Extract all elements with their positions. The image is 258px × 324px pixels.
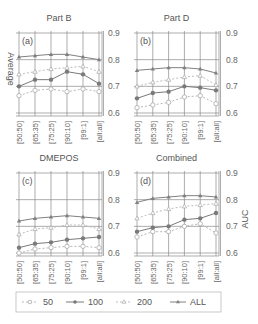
- x-tick-label: [65:35]: [31, 121, 40, 144]
- data-point: [65, 223, 69, 227]
- data-point: [81, 87, 85, 91]
- data-point: [33, 88, 37, 92]
- data-point: [214, 83, 218, 87]
- data-point: [135, 229, 139, 233]
- data-point: [49, 67, 53, 71]
- data-point: [81, 244, 85, 248]
- open-circle-icon: [28, 300, 32, 304]
- x-tick-label: [50:50]: [133, 121, 142, 144]
- data-point: [97, 89, 101, 93]
- data-point: [17, 93, 21, 97]
- data-point: [135, 235, 139, 239]
- x-tick-label: [50:50]: [133, 261, 142, 284]
- y-tick-label: 0.9: [108, 28, 120, 38]
- y-tick-label: 0.7: [226, 81, 238, 91]
- legend-label-200: 200: [137, 297, 152, 307]
- data-point: [17, 251, 21, 255]
- data-point: [151, 211, 155, 215]
- data-point: [65, 65, 69, 69]
- data-point: [49, 77, 53, 81]
- data-point: [81, 72, 85, 76]
- x-tick-label: [65:35]: [149, 261, 158, 284]
- data-point: [166, 224, 170, 228]
- data-point: [151, 103, 155, 107]
- y-tick-label: 0.8: [108, 195, 120, 205]
- data-point: [166, 207, 170, 211]
- data-point: [182, 217, 186, 221]
- x-tick-label: [all:all]: [212, 121, 221, 142]
- x-tick-label: [90:10]: [180, 121, 189, 144]
- y-tick-label: 0.7: [108, 221, 120, 231]
- data-point: [198, 203, 202, 207]
- series-line-all: [137, 196, 216, 203]
- x-tick-label: [all:all]: [95, 261, 104, 282]
- data-point: [33, 247, 37, 251]
- y-axis-label: Average: [6, 52, 16, 85]
- data-point: [135, 105, 139, 109]
- x-tick-label: [99:1]: [196, 121, 205, 140]
- legend-label-all: ALL: [190, 297, 206, 307]
- data-point: [182, 204, 186, 208]
- x-tick-label: [65:35]: [149, 121, 158, 144]
- series-line-all: [19, 54, 99, 59]
- data-point: [33, 77, 37, 81]
- data-point: [97, 245, 101, 249]
- data-point: [214, 101, 218, 105]
- data-point: [182, 224, 186, 228]
- panel-title: DMEPOS: [39, 153, 78, 163]
- data-point: [97, 235, 101, 239]
- data-point: [65, 69, 69, 73]
- data-point: [33, 227, 37, 231]
- data-point: [81, 223, 85, 227]
- x-tick-label: [65:35]: [31, 261, 40, 284]
- data-point: [151, 91, 155, 95]
- y-tick-label: 0.6: [226, 108, 238, 118]
- data-point: [166, 89, 170, 93]
- series-line-50: [137, 224, 216, 237]
- y-tick-label: 0.8: [226, 195, 238, 205]
- y-tick-label: 0.7: [226, 221, 238, 231]
- chart-panel-b: 0.90.80.70.6Part D(b)[50:50][65:35][75:2…: [133, 13, 238, 144]
- x-tick-label: [75:25]: [165, 261, 174, 284]
- y-tick-label: 0.7: [108, 81, 120, 91]
- series-line-all: [19, 216, 99, 221]
- series-line-100: [19, 72, 99, 87]
- series-line-50: [19, 89, 99, 96]
- panel-title: Part B: [46, 13, 71, 23]
- data-point: [214, 201, 218, 205]
- x-tick-label: [50:50]: [15, 121, 24, 144]
- y-tick-label: 0.9: [108, 168, 120, 178]
- legend: 50 100 200 ALL: [16, 292, 221, 312]
- data-point: [166, 100, 170, 104]
- data-point: [182, 95, 186, 99]
- data-point: [151, 229, 155, 233]
- x-tick-label: [99:1]: [196, 261, 205, 280]
- data-point: [214, 88, 218, 92]
- data-point: [214, 211, 218, 215]
- y-tick-label: 0.8: [226, 55, 238, 65]
- series-line-100: [19, 237, 99, 248]
- data-point: [198, 93, 202, 97]
- series-line-100: [137, 86, 216, 98]
- data-point: [166, 229, 170, 233]
- series-line-200: [19, 66, 99, 74]
- series-line-200: [137, 76, 216, 87]
- data-point: [198, 221, 202, 225]
- x-tick-label: [90:10]: [63, 261, 72, 284]
- panel-label: (d): [140, 176, 151, 186]
- data-point: [49, 240, 53, 244]
- figure: 0.90.80.70.6Part B(a)[50:50][65:35][75:2…: [0, 0, 258, 324]
- data-point: [65, 237, 69, 241]
- panel-label: (c): [22, 176, 33, 186]
- x-tick-label: [99:1]: [79, 261, 88, 280]
- data-point: [182, 84, 186, 88]
- data-point: [17, 245, 21, 249]
- series-line-200: [137, 204, 216, 219]
- chart-panel-a: 0.90.80.70.6Part B(a)[50:50][65:35][75:2…: [6, 13, 120, 144]
- legend-label-50: 50: [43, 297, 53, 307]
- series-line-50: [19, 246, 99, 253]
- data-point: [135, 96, 139, 100]
- data-point: [33, 241, 37, 245]
- x-tick-label: [all:all]: [95, 121, 104, 142]
- y-tick-label: 0.6: [108, 248, 120, 258]
